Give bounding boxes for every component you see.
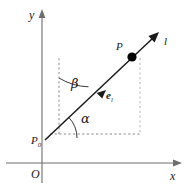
figure-canvas [0,0,193,191]
line-l-shaft [45,38,153,140]
alpha-angle-arc [69,117,77,138]
y-axis-arrowhead [39,9,46,18]
point-p-dot [127,52,136,61]
beta-angle-arc [59,78,89,87]
line-l-group [45,32,159,140]
angle-arcs-group [59,78,89,138]
geometry-figure: y x O P0 P l el α β [0,0,193,191]
x-axis-arrowhead [173,160,182,167]
unit-vector-marker-group [97,90,106,99]
unit-vector-arrowhead [97,90,106,99]
